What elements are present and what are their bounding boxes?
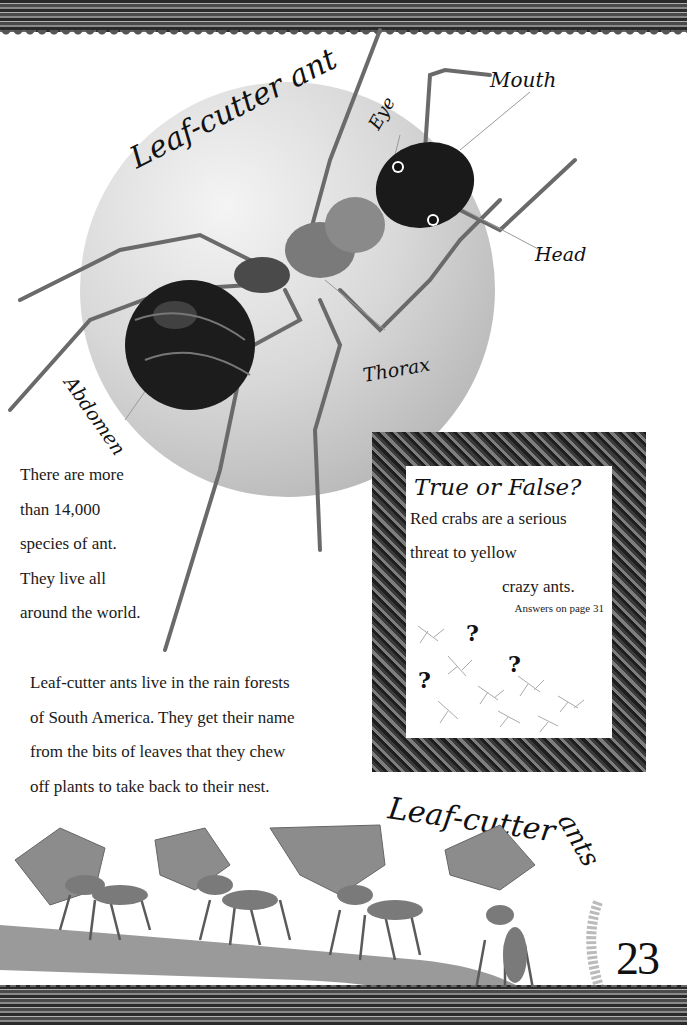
fact-line: They live all	[20, 562, 190, 597]
paragraph-line: of South America. They get their name	[30, 701, 360, 736]
question-line: crazy ants.	[410, 570, 608, 604]
svg-text:?: ?	[418, 667, 431, 693]
label-head: Head	[535, 243, 586, 265]
leaf	[445, 825, 535, 890]
crazy-ants-crowd-illustration: ? ? ?	[408, 606, 608, 736]
fact-line: species of ant.	[20, 527, 190, 562]
label-mouth: Mouth	[490, 68, 556, 92]
paragraph-line: off plants to take back to their nest.	[30, 770, 360, 805]
page-number: 23	[616, 932, 658, 985]
question-line: threat to yellow	[410, 536, 608, 570]
leaf-cutter-paragraph: Leaf-cutter ants live in the rain forest…	[30, 666, 360, 804]
ant-abdomen	[125, 280, 255, 410]
fact-line: There are more	[20, 458, 190, 493]
paragraph-line: from the bits of leaves that they chew	[30, 735, 360, 770]
decorative-bottom-border	[0, 985, 687, 1025]
species-fact-text: There are more than 14,000 species of an…	[20, 458, 190, 631]
leaf	[270, 825, 385, 895]
fact-line: around the world.	[20, 596, 190, 631]
paragraph-line: Leaf-cutter ants live in the rain forest…	[30, 666, 360, 701]
question-line: Red crabs are a serious	[410, 502, 608, 536]
true-or-false-question: Red crabs are a serious threat to yellow…	[410, 502, 608, 604]
svg-text:?: ?	[466, 620, 479, 646]
true-or-false-title: True or False?	[414, 474, 608, 500]
fact-line: than 14,000	[20, 493, 190, 528]
true-or-false-box: True or False? Red crabs are a serious t…	[372, 432, 646, 772]
svg-text:?: ?	[508, 651, 521, 677]
